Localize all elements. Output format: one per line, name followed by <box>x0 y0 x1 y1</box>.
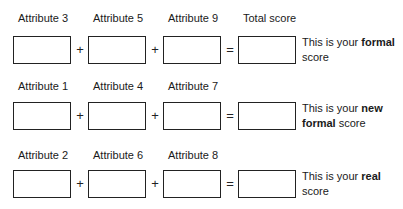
plus-operator: + <box>75 109 85 123</box>
input-box-attribute-9[interactable] <box>163 36 221 64</box>
plus-operator: + <box>150 109 160 123</box>
plus-operator: + <box>150 43 160 57</box>
description-suffix: score <box>302 51 329 63</box>
input-box-attribute-8[interactable] <box>163 170 221 198</box>
description-formal-score: This is your formal score <box>302 35 402 65</box>
label-attribute-9: Attribute 9 <box>168 12 218 24</box>
label-attribute-2: Attribute 2 <box>18 149 68 161</box>
input-box-attribute-3[interactable] <box>13 36 71 64</box>
description-prefix: This is your <box>302 102 361 114</box>
equals-operator: = <box>225 177 235 191</box>
input-box-attribute-6[interactable] <box>88 170 146 198</box>
input-box-real-total[interactable] <box>238 170 296 198</box>
description-suffix: score <box>302 185 329 197</box>
label-attribute-8: Attribute 8 <box>168 149 218 161</box>
label-attribute-1: Attribute 1 <box>18 80 68 92</box>
equals-operator: = <box>225 109 235 123</box>
input-box-attribute-4[interactable] <box>88 102 146 130</box>
description-real-score: This is your real score <box>302 169 402 199</box>
label-attribute-4: Attribute 4 <box>93 80 143 92</box>
description-bold: real <box>361 170 381 182</box>
description-bold: formal <box>361 36 395 48</box>
description-new-formal-score: This is your new formal score <box>302 101 402 131</box>
description-prefix: This is your <box>302 170 361 182</box>
label-attribute-3: Attribute 3 <box>18 12 68 24</box>
input-box-new-formal-total[interactable] <box>238 102 296 130</box>
plus-operator: + <box>75 43 85 57</box>
equals-operator: = <box>225 43 235 57</box>
description-prefix: This is your <box>302 36 361 48</box>
plus-operator: + <box>75 177 85 191</box>
input-box-attribute-2[interactable] <box>13 170 71 198</box>
input-box-attribute-1[interactable] <box>13 102 71 130</box>
label-attribute-6: Attribute 6 <box>93 149 143 161</box>
plus-operator: + <box>150 177 160 191</box>
label-total-score: Total score <box>243 12 296 24</box>
description-suffix: score <box>336 117 366 129</box>
label-attribute-7: Attribute 7 <box>168 80 218 92</box>
label-attribute-5: Attribute 5 <box>93 12 143 24</box>
input-box-attribute-5[interactable] <box>88 36 146 64</box>
input-box-attribute-7[interactable] <box>163 102 221 130</box>
input-box-total-score[interactable] <box>238 36 296 64</box>
